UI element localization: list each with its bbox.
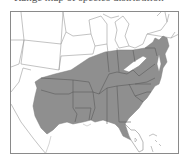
range-map (11, 12, 179, 154)
range-area (33, 36, 169, 140)
map-caption: Range map of species distribution (14, 0, 164, 3)
bahamas-islands (149, 134, 161, 152)
map-frame (10, 11, 179, 154)
